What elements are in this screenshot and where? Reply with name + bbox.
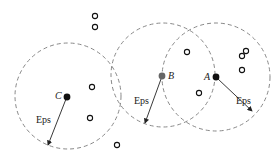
point-label-b: B: [168, 70, 174, 81]
noise-point: [114, 142, 119, 147]
eps-arrows: EpsEpsEps: [36, 79, 252, 145]
noise-point: [239, 67, 244, 72]
eps-label: Eps: [36, 114, 51, 125]
noise-point: [92, 13, 97, 18]
point-b: [159, 73, 166, 80]
point-a: [213, 74, 220, 81]
noise-point: [239, 53, 244, 58]
point-c: [64, 94, 71, 101]
point-label-a: A: [203, 71, 211, 82]
noise-point: [196, 90, 201, 95]
dbscan-diagram: EpsEpsEps CBA: [0, 0, 278, 163]
noise-point: [87, 115, 92, 120]
noise-point: [243, 48, 248, 53]
noise-point: [89, 84, 94, 89]
point-label-c: C: [55, 90, 62, 101]
noise-point: [92, 24, 97, 29]
eps-label: Eps: [236, 95, 251, 106]
eps-label: Eps: [134, 95, 149, 106]
eps-neighborhoods: [15, 23, 270, 149]
noise-point: [184, 49, 189, 54]
